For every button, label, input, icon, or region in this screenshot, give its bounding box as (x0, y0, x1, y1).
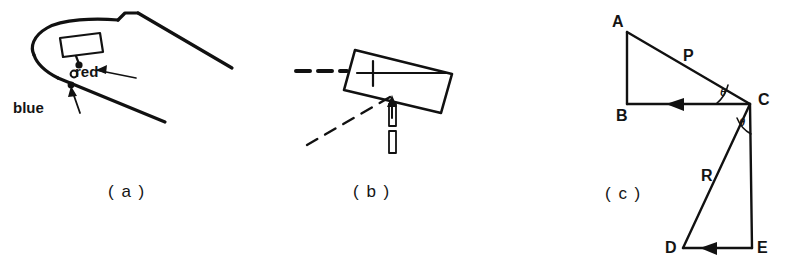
caption-panel-c: ( c ) (605, 185, 642, 202)
vector-label-R: R (701, 168, 713, 184)
arrowhead-CB (666, 98, 684, 111)
wing-nose-curve (34, 55, 58, 78)
wing-notch-step (118, 13, 138, 20)
point-label-E: E (757, 240, 768, 256)
label-blue: blue (13, 100, 44, 115)
wing-upper-surface (138, 13, 232, 68)
caption-panel-b: ( b ) (353, 183, 391, 200)
point-label-C: C (758, 92, 770, 108)
figure-container: red blue ( a ) ( b ) ( c ) A B C D E P R… (0, 0, 803, 266)
figure-linework (0, 0, 803, 266)
point-label-B: B (616, 108, 628, 124)
angle-label-theta-upper: θ (720, 87, 726, 98)
panel-a-artwork (32, 13, 232, 122)
plate-dashed-ray (307, 97, 390, 145)
point-label-D: D (665, 240, 677, 256)
pin-segment-lower (389, 131, 396, 153)
point-label-A: A (612, 14, 624, 30)
caption-panel-a: ( a ) (108, 183, 146, 200)
plate-body (344, 50, 452, 113)
panel-c-artwork (627, 32, 752, 255)
segment-CE (750, 104, 752, 248)
angle-label-theta-lower: θ (739, 117, 745, 128)
vector-label-P: P (683, 48, 694, 64)
arrowhead-ED (700, 242, 717, 255)
segment-AC-vector-P (627, 32, 750, 104)
marker-device-body (60, 33, 103, 57)
panel-b-artwork (296, 50, 452, 153)
label-red: red (75, 64, 98, 79)
